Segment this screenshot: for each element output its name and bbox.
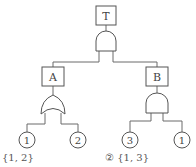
option-right-text: {1, 3}	[117, 152, 149, 163]
event-b-label: B	[153, 71, 161, 84]
top-event-label: T	[102, 10, 110, 23]
and-gate-icon	[96, 31, 116, 51]
or-gate-icon	[41, 95, 65, 114]
svg-text:3: 3	[127, 135, 133, 146]
event-b: B	[146, 67, 168, 86]
fault-tree-diagram: T A B 1 2 3 1	[0, 0, 196, 167]
option-right: ② {1, 3}	[105, 152, 149, 163]
svg-text:2: 2	[75, 135, 81, 146]
svg-text:1: 1	[24, 135, 30, 146]
and-gate-icon	[146, 93, 168, 113]
svg-text:1: 1	[179, 135, 185, 146]
event-a-label: A	[48, 71, 58, 84]
event-a: A	[42, 67, 64, 86]
option-left-text: {1, 2}	[2, 152, 34, 163]
basic-event-1: 1	[19, 132, 35, 148]
option-marker: ②	[105, 152, 114, 163]
top-event-t: T	[96, 6, 116, 25]
basic-event-1-dup: 1	[174, 132, 190, 148]
basic-event-3: 3	[122, 132, 138, 148]
basic-event-2: 2	[70, 132, 86, 148]
